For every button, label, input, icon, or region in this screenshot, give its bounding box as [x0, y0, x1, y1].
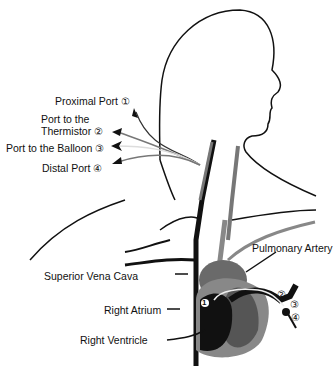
svc-label: Superior Vena Cava	[44, 270, 138, 282]
tip-marker-4: ④	[291, 312, 300, 324]
thermistor-port-label: Port to the Thermistor ②	[41, 113, 103, 138]
proximal-port-text: Proximal Port	[55, 95, 118, 107]
port-num-3: ③	[95, 143, 104, 154]
tip-marker-2: ②	[277, 289, 286, 301]
distal-port-label: Distal Port ④	[42, 162, 102, 175]
port-num-1: ①	[121, 96, 130, 107]
proximal-port-label: Proximal Port ①	[55, 95, 130, 108]
balloon-port-label: Port to the Balloon ③	[6, 142, 104, 155]
port-num-2: ②	[94, 126, 103, 137]
chamber-marker: 1	[202, 297, 206, 309]
thermistor-line1: Port to the	[41, 113, 103, 125]
balloon-port-text: Port to the Balloon	[6, 142, 92, 154]
right-atrium-label: Right Atrium	[104, 304, 161, 316]
pulmonary-artery-label: Pulmonary Artery	[252, 242, 333, 254]
distal-port-text: Distal Port	[42, 162, 90, 174]
port-num-4: ④	[93, 163, 102, 174]
thermistor-line2: Thermistor	[41, 125, 91, 137]
diagram-canvas	[0, 0, 336, 366]
tip-marker-3: ③	[290, 299, 299, 311]
right-ventricle-label: Right Ventricle	[80, 334, 148, 346]
